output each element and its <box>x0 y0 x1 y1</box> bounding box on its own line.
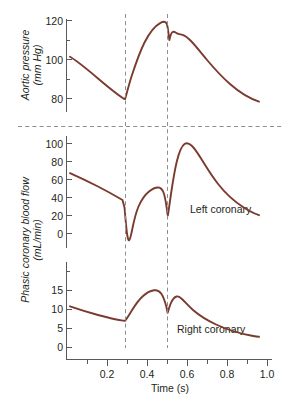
trace-right-coronary <box>70 290 259 337</box>
panel-left-coronary: 100 80 60 40 20 0 Phasic coronary blood … <box>19 136 259 303</box>
x-axis: 0.2 0.4 0.6 0.8 1.0 Time (s) <box>67 360 275 395</box>
panel1-ytick-120: 120 <box>45 15 63 27</box>
panel2-ytick-40: 40 <box>51 192 63 204</box>
phasic-coronary-blood-flow-figure: 120 100 80 Aortic pressure (mm Hg) 100 8… <box>0 0 289 408</box>
panel2-ytick-80: 80 <box>51 156 63 168</box>
xtick-1-0: 1.0 <box>260 368 275 380</box>
panel3-ytick-5: 5 <box>57 322 63 334</box>
panel-right-coronary: 15 10 5 0 Right coronary <box>51 262 259 360</box>
panel2-ytick-20: 20 <box>51 210 63 222</box>
chart-canvas: 120 100 80 Aortic pressure (mm Hg) 100 8… <box>0 0 289 408</box>
xtick-0-2: 0.2 <box>100 368 115 380</box>
x-axis-ticks <box>87 360 267 367</box>
panel2-ytick-0: 0 <box>57 228 63 240</box>
panel3-ytick-15: 15 <box>51 284 63 296</box>
panel1-axis-title-line2: (mm Hg) <box>31 45 43 86</box>
panel3-ytick-0: 0 <box>57 341 63 353</box>
panel1-ytick-80: 80 <box>51 93 63 105</box>
panel2-axis-title-line1: Phasic coronary blood flow <box>19 176 31 303</box>
xtick-0-6: 0.6 <box>180 368 195 380</box>
annotation-right-coronary: Right coronary <box>177 323 246 335</box>
trace-aortic-pressure <box>70 22 259 102</box>
panel-aortic-pressure: 120 100 80 Aortic pressure (mm Hg) <box>19 15 259 113</box>
panel3-ytick-10: 10 <box>51 303 63 315</box>
annotation-left-coronary: Left coronary <box>190 203 252 215</box>
panel1-axis-title-line1: Aortic pressure <box>19 30 31 102</box>
trace-left-coronary <box>70 143 259 240</box>
panel2-ytick-60: 60 <box>51 174 63 186</box>
xtick-0-4: 0.4 <box>140 368 155 380</box>
xtick-0-8: 0.8 <box>220 368 235 380</box>
panel2-axis-title-line2: (mL/min) <box>31 219 43 260</box>
panel3-y-ticks <box>67 271 72 359</box>
panel2-y-ticks <box>67 144 72 234</box>
x-axis-title: Time (s) <box>151 382 189 394</box>
panel2-ytick-100: 100 <box>45 138 63 150</box>
event-guide-lines <box>126 14 168 348</box>
panel1-y-ticks <box>67 21 72 99</box>
panel1-ytick-100: 100 <box>45 54 63 66</box>
